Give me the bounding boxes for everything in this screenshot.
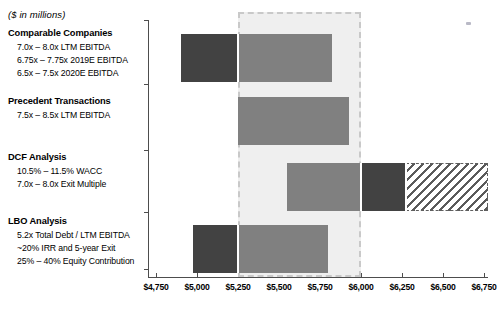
category-title: DCF Analysis bbox=[8, 152, 106, 163]
category-method: 7.5x – 8.5x LTM EBITDA bbox=[17, 110, 111, 121]
category-title: Comparable Companies bbox=[8, 28, 128, 39]
category-title: LBO Analysis bbox=[8, 216, 134, 227]
category-method: 25% – 40% Equity Contribution bbox=[17, 256, 134, 267]
category-method: 7.0x – 8.0x LTM EBITDA bbox=[17, 42, 128, 53]
category-label-dcf-analysis: DCF Analysis 10.5% – 11.5% WACC 7.0x – 8… bbox=[8, 152, 106, 192]
x-axis-tick-label: $6,500 bbox=[430, 282, 455, 292]
category-method: 5.2x Total Debt / LTM EBITDA bbox=[17, 230, 134, 241]
x-axis-tick bbox=[156, 273, 157, 278]
valuation-bar[interactable] bbox=[148, 225, 488, 273]
y-axis-tick bbox=[144, 212, 149, 213]
category-method: ~20% IRR and 5-year Exit bbox=[17, 243, 134, 254]
valuation-bar[interactable] bbox=[148, 34, 488, 82]
y-axis-tick bbox=[144, 84, 149, 85]
valuation-bar[interactable] bbox=[148, 163, 488, 211]
bar-segment-divider bbox=[237, 225, 239, 273]
category-method: 10.5% – 11.5% WACC bbox=[17, 166, 106, 177]
x-axis-tick bbox=[197, 273, 198, 278]
x-axis-tick-label: $5,750 bbox=[307, 282, 332, 292]
x-axis-tick bbox=[361, 273, 362, 278]
bar-segment-hatch bbox=[406, 163, 488, 211]
x-axis-tick-label: $5,000 bbox=[184, 282, 209, 292]
x-axis-tick-label: $6,250 bbox=[389, 282, 414, 292]
plot-area: $4,750$5,000$5,250$5,500$5,750$6,000$6,2… bbox=[148, 20, 488, 278]
bar-segment-dark bbox=[193, 225, 238, 273]
bar-segment-mid bbox=[287, 163, 361, 211]
x-axis-tick-label: $6,750 bbox=[471, 282, 496, 292]
x-axis-tick bbox=[402, 273, 403, 278]
category-method: 6.5x – 7.5x 2020E EBITDA bbox=[17, 68, 128, 79]
category-method: 6.75x – 7.75x 2019E EBITDA bbox=[17, 55, 128, 66]
bar-segment-divider bbox=[360, 163, 362, 211]
bar-segment-mid bbox=[238, 225, 328, 273]
category-title: Precedent Transactions bbox=[8, 96, 111, 107]
top-marker bbox=[466, 22, 471, 25]
x-axis-tick bbox=[484, 273, 485, 278]
bar-segment-divider bbox=[405, 163, 407, 211]
y-axis-tick bbox=[144, 150, 149, 151]
category-label-lbo-analysis: LBO Analysis 5.2x Total Debt / LTM EBITD… bbox=[8, 216, 134, 269]
x-axis bbox=[148, 277, 488, 278]
bar-segment-dark bbox=[181, 34, 238, 82]
category-label-comparable-companies: Comparable Companies 7.0x – 8.0x LTM EBI… bbox=[8, 28, 128, 81]
x-axis-tick bbox=[443, 273, 444, 278]
bar-segment-divider bbox=[237, 34, 239, 82]
bar-segment-dark bbox=[361, 163, 406, 211]
category-label-precedent-transactions: Precedent Transactions 7.5x – 8.5x LTM E… bbox=[8, 96, 111, 123]
bar-segment-mid bbox=[238, 34, 332, 82]
x-axis-tick-label: $5,250 bbox=[225, 282, 250, 292]
x-axis-tick-label: $5,500 bbox=[266, 282, 291, 292]
x-axis-tick-label: $4,750 bbox=[143, 282, 168, 292]
valuation-bar[interactable] bbox=[148, 97, 488, 145]
bar-segment-mid bbox=[238, 97, 349, 145]
units-note: ($ in millions) bbox=[8, 9, 65, 20]
y-axis-tick bbox=[144, 20, 149, 21]
category-method: 7.0x – 8.0x Exit Multiple bbox=[17, 179, 106, 190]
x-axis-tick-label: $6,000 bbox=[348, 282, 373, 292]
